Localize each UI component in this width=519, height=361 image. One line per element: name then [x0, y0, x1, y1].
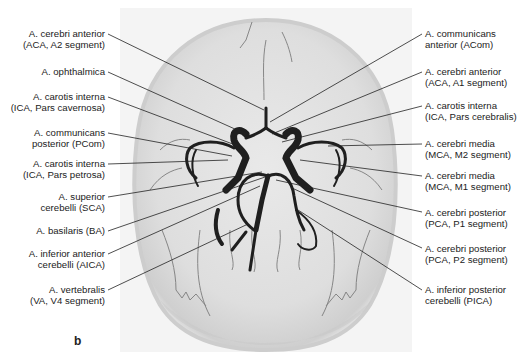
label-line: A. cerebri anterior	[23, 28, 105, 39]
label-line: A. communicans	[425, 28, 496, 39]
label-mca-m1: A. cerebri media (MCA, M1 segment)	[425, 170, 511, 193]
label-pca-p2: A. cerebri posterior (PCA, P2 segment)	[425, 243, 508, 266]
label-pica: A. inferior posterior cerebelli (PICA)	[425, 284, 506, 307]
label-line: posterior (PCom)	[32, 138, 105, 149]
label-acom: A. communicans anterior (ACom)	[425, 28, 496, 51]
label-line: A. communicans	[32, 127, 105, 138]
label-ophthalmica: A. ophthalmica	[42, 66, 105, 77]
label-ica-petrosa: A. carotis interna (ICA, Pars petrosa)	[23, 158, 105, 181]
label-aca-a1: A. cerebri anterior (ACA, A1 segment)	[425, 66, 507, 89]
label-ica-cerebralis: A. carotis interna (ICA, Pars cerebralis…	[425, 100, 517, 123]
label-line: (ICA, Pars cerebralis)	[425, 111, 517, 122]
label-line: A. vertebralis	[30, 284, 105, 295]
angiogram-figure: A. cerebri anterior (ACA, A2 segment) A.…	[0, 0, 519, 361]
label-basilaris: A. basilaris (BA)	[36, 225, 105, 236]
label-line: A. inferior posterior	[425, 284, 506, 295]
label-line: (ACA, A1 segment)	[425, 77, 507, 88]
label-line: cerebelli (PICA)	[425, 295, 506, 306]
label-line: (MCA, M1 segment)	[425, 181, 511, 192]
label-line: (PCA, P1 segment)	[425, 218, 508, 229]
label-line: A. carotis interna	[425, 100, 517, 111]
label-line: (MCA, M2 segment)	[425, 149, 511, 160]
label-line: A. inferior anterior	[29, 248, 105, 259]
label-line: (PCA, P2 segment)	[425, 254, 508, 265]
label-line: (ICA, Pars cavernosa)	[11, 102, 105, 113]
label-line: A. cerebri media	[425, 138, 511, 149]
label-pcom: A. communicans posterior (PCom)	[32, 127, 105, 150]
label-line: cerebelli (SCA)	[40, 202, 105, 213]
label-sca: A. superior cerebelli (SCA)	[40, 191, 105, 214]
label-aica: A. inferior anterior cerebelli (AICA)	[29, 248, 105, 271]
label-line: (ACA, A2 segment)	[23, 39, 105, 50]
label-line: (ICA, Pars petrosa)	[23, 169, 105, 180]
label-line: A. carotis interna	[11, 91, 105, 102]
label-line: A. carotis interna	[23, 158, 105, 169]
label-vertebralis: A. vertebralis (VA, V4 segment)	[30, 284, 105, 307]
label-line: A. cerebri posterior	[425, 243, 508, 254]
label-line: A. ophthalmica	[42, 66, 105, 77]
label-line: (VA, V4 segment)	[30, 295, 105, 306]
label-mca-m2: A. cerebri media (MCA, M2 segment)	[425, 138, 511, 161]
label-line: A. cerebri posterior	[425, 207, 508, 218]
label-line: A. cerebri anterior	[425, 66, 507, 77]
label-line: A. basilaris (BA)	[36, 225, 105, 236]
label-line: A. superior	[40, 191, 105, 202]
label-aca-a2: A. cerebri anterior (ACA, A2 segment)	[23, 28, 105, 51]
label-line: anterior (ACom)	[425, 39, 496, 50]
label-pca-p1: A. cerebri posterior (PCA, P1 segment)	[425, 207, 508, 230]
label-line: A. cerebri media	[425, 170, 511, 181]
label-line: cerebelli (AICA)	[29, 259, 105, 270]
panel-letter: b	[74, 334, 81, 348]
label-ica-cavernosa: A. carotis interna (ICA, Pars cavernosa)	[11, 91, 105, 114]
